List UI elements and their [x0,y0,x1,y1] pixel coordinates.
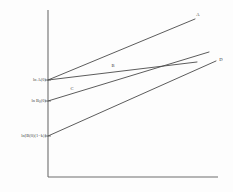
data-line-c [48,52,209,101]
curve-label-c: C [70,86,73,91]
data-line-d [48,61,216,136]
figure-container: A B C D ln A(0) ln B0(0) ln[B(0)(1−k)] [0,0,233,192]
curve-label-d: D [219,57,223,62]
tick-label-suffix: (0) [41,98,46,103]
plot-area: A B C D [0,0,233,192]
tick-label-text: ln A(0) [33,77,46,82]
y-axis-tick-label-ln-b0-1-k: ln[B(0)(1−k)] [21,134,46,138]
y-axis-tick-label-ln-b0: ln B0(0) [31,99,46,103]
tick-label-text: ln[B(0)(1−k)] [21,133,46,138]
y-axis-tick-label-ln-a0: ln A(0) [33,78,46,82]
tick-label-text: ln B [31,98,39,103]
curve-label-a: A [196,12,200,17]
tick-label-subscript: 0 [39,100,41,104]
curve-label-b: B [111,63,114,68]
